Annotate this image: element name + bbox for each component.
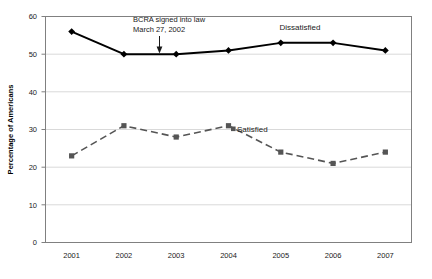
ytick-label-30: 30 xyxy=(29,125,37,134)
data-point-satisfied-2004 xyxy=(226,123,231,128)
ytick-label-50: 50 xyxy=(29,50,37,59)
chart-container: 60 50 40 30 20 10 0 Percentage of Americ… xyxy=(0,0,432,279)
xtick-label-2007: 2007 xyxy=(377,251,394,260)
data-point-satisfied-2003 xyxy=(174,134,179,139)
bcra-annotation-line1: BCRA signed into law xyxy=(133,15,206,24)
xtick-label-2002: 2002 xyxy=(116,251,133,260)
xtick-label-2001: 2001 xyxy=(63,251,80,260)
data-point-satisfied-2007 xyxy=(383,150,388,155)
data-point-satisfied-2006 xyxy=(330,161,335,166)
bcra-annotation-line2: March 27, 2002 xyxy=(133,25,185,34)
ytick-label-10: 10 xyxy=(29,201,37,210)
xtick-label-2004: 2004 xyxy=(220,251,237,260)
ytick-label-60: 60 xyxy=(29,12,37,21)
y-axis-title: Percentage of Americans xyxy=(6,85,15,175)
y-axis-ticks xyxy=(42,17,46,243)
line-chart: 60 50 40 30 20 10 0 Percentage of Americ… xyxy=(0,0,432,279)
xtick-label-2003: 2003 xyxy=(168,251,185,260)
data-point-satisfied-2001 xyxy=(69,153,74,158)
data-point-satisfied-2005 xyxy=(278,150,283,155)
ytick-label-20: 20 xyxy=(29,163,37,172)
ytick-label-40: 40 xyxy=(29,88,37,97)
y-axis-tick-labels: 60 50 40 30 20 10 0 xyxy=(29,12,37,247)
xtick-label-2006: 2006 xyxy=(325,251,342,260)
ytick-label-0: 0 xyxy=(33,238,37,247)
data-point-satisfied-2002 xyxy=(121,123,126,128)
x-axis-tick-labels: 2001 2002 2003 2004 2005 2006 2007 xyxy=(63,251,393,260)
satisfied-label-marker-icon xyxy=(231,127,236,132)
dissatisfied-series-label: Dissatisfied xyxy=(280,23,321,32)
xtick-label-2005: 2005 xyxy=(272,251,289,260)
satisfied-series-label: Satisfied xyxy=(237,125,268,134)
